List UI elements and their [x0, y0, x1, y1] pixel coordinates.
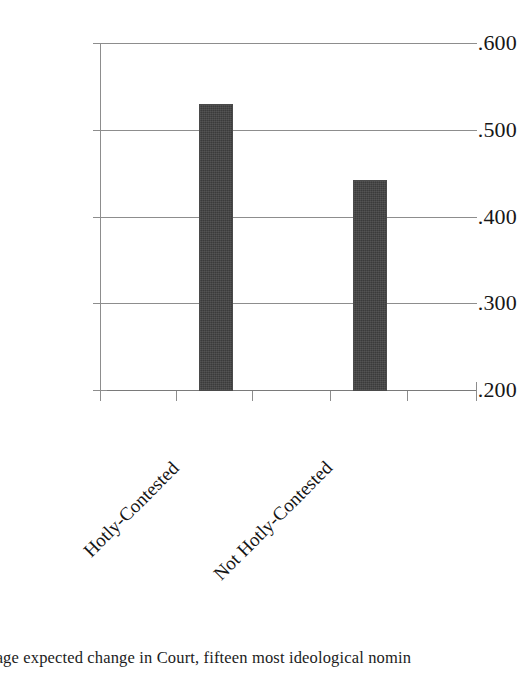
- y-tick-600: [93, 43, 107, 44]
- x-tick-1: [176, 391, 177, 401]
- x-tick-4: [407, 391, 408, 401]
- gridline-300: [100, 303, 477, 304]
- x-tick-0: [100, 391, 101, 401]
- x-tick-5: [476, 391, 477, 401]
- x-axis-category-label-not-hotly-contested: Not Hotly-Contested: [209, 457, 336, 584]
- x-tick-3: [330, 391, 331, 401]
- x-axis-right-stub: [476, 382, 477, 391]
- gridline-400: [100, 217, 477, 218]
- bar-not-hotly-contested: [353, 180, 387, 391]
- y-tick-500: [93, 130, 107, 131]
- gridline-500: [100, 130, 477, 131]
- y-tick-300: [93, 303, 107, 304]
- y-tick-400: [93, 217, 107, 218]
- x-axis-category-label-hotly-contested: Hotly-Contested: [79, 457, 183, 561]
- gridline-600: [100, 43, 477, 44]
- x-axis-baseline: [100, 390, 477, 391]
- x-tick-2: [252, 391, 253, 401]
- figure-caption: rage expected change in Court, fifteen m…: [0, 648, 517, 668]
- bar-hotly-contested: [199, 104, 233, 391]
- figure-bar-chart: .600 .500 .400 .300 .200 Hotly-Contested…: [0, 0, 517, 681]
